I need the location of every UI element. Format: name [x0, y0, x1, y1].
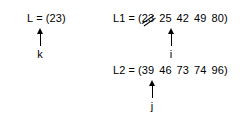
pointer-label-j: j: [151, 100, 153, 112]
list-name-l2: L2: [113, 64, 125, 77]
equals-sign-l2: =: [128, 64, 135, 77]
equals-sign-l: =: [36, 12, 43, 25]
arrow-shaft: [152, 86, 153, 98]
arrow-shaft: [40, 34, 41, 46]
list-element: 23: [50, 12, 62, 25]
list-element: 96: [211, 64, 223, 77]
pointer-label-k: k: [37, 48, 43, 60]
close-paren-l2: ): [224, 64, 228, 77]
expression-line-l1: L1 = ( 23 25 42 49 80 ): [113, 12, 228, 25]
list-element: 80: [211, 12, 223, 25]
pointer-diagram: L = ( 23 ) k L1 = ( 23 25 42 49 80 ): [0, 0, 244, 121]
element-list-l2: 39 46 73 74 96: [142, 64, 224, 77]
equals-sign-l1: =: [128, 12, 135, 25]
element-list-l1: 23 25 42 49 80: [142, 12, 224, 25]
expression-group-l: L = ( 23 ): [27, 12, 66, 25]
element-list-l: 23: [50, 12, 62, 25]
list-element: 39: [142, 64, 154, 77]
close-paren-l: ): [62, 12, 66, 25]
pointer-i: i: [164, 28, 178, 60]
expression-group-l1: L1 = ( 23 25 42 49 80 ): [113, 12, 228, 25]
list-element: 73: [177, 64, 189, 77]
list-element: 46: [159, 64, 171, 77]
close-paren-l1: ): [224, 12, 228, 25]
arrow-shaft: [171, 34, 172, 46]
expression-line-l2: L2 = ( 39 46 73 74 96 ): [113, 64, 228, 77]
expression-group-l2: L2 = ( 39 46 73 74 96 ): [113, 64, 228, 77]
list-name-l: L: [27, 12, 33, 25]
list-element: 49: [194, 12, 206, 25]
pointer-k: k: [33, 28, 47, 60]
list-element: 74: [194, 64, 206, 77]
pointer-label-i: i: [170, 48, 172, 60]
pointer-j: j: [145, 80, 159, 112]
list-name-l1: L1: [113, 12, 125, 25]
list-element: 42: [177, 12, 189, 25]
list-element: 25: [159, 12, 171, 25]
list-element-struck: 23: [142, 12, 154, 25]
expression-line-l: L = ( 23 ): [27, 12, 66, 25]
